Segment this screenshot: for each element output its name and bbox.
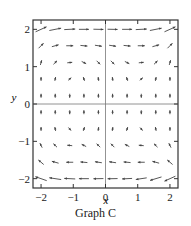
field-arrow — [38, 160, 43, 165]
field-arrow — [80, 161, 87, 163]
field-arrow — [139, 144, 144, 146]
field-arrow — [54, 127, 56, 131]
field-arrow — [66, 45, 73, 47]
field-arrow — [95, 45, 102, 47]
field-arrow — [138, 45, 145, 47]
field-arrow — [80, 45, 87, 47]
graph-caption: Graph C — [0, 206, 191, 221]
field-arrow — [97, 110, 99, 114]
field-arrow — [169, 127, 171, 131]
field-arrow — [49, 177, 61, 180]
y-tick-label: −1 — [18, 135, 30, 147]
field-arrow — [54, 94, 56, 98]
field-arrow — [108, 28, 118, 30]
x-axis-label: x — [103, 194, 109, 206]
field-arrow — [79, 177, 89, 179]
field-arrow — [167, 160, 172, 165]
field-arrow — [52, 44, 59, 46]
field-arrow — [64, 177, 75, 179]
field-arrow — [139, 61, 144, 63]
field-arrow — [140, 78, 143, 81]
field-arrow — [40, 94, 42, 98]
field-arrow — [154, 61, 158, 65]
field-arrow — [111, 110, 113, 114]
field-arrow — [52, 161, 59, 163]
field-arrow — [68, 78, 71, 81]
field-arrow — [122, 178, 132, 180]
field-arrow — [54, 110, 56, 114]
field-arrow — [169, 143, 171, 147]
field-arrow — [53, 144, 57, 148]
field-arrow — [126, 94, 128, 98]
x-tick-label: 2 — [167, 191, 173, 203]
y-tick-label: 0 — [25, 98, 31, 110]
field-arrow — [126, 77, 128, 81]
field-arrow — [40, 143, 42, 147]
field-arrow — [40, 77, 42, 81]
field-arrow — [152, 44, 159, 46]
field-arrow — [53, 61, 57, 65]
field-arrow — [111, 94, 113, 98]
field-arrow — [39, 43, 44, 48]
field-arrow — [155, 94, 157, 98]
field-arrow — [97, 127, 99, 131]
field-arrow — [97, 61, 101, 65]
field-arrow — [83, 77, 85, 81]
vector-field-figure: −2−1012−2−1012 x y Graph C — [0, 0, 191, 226]
field-arrow — [150, 177, 161, 181]
y-axis-label: y — [11, 91, 17, 103]
field-arrow — [111, 144, 115, 148]
field-arrow — [97, 94, 99, 98]
field-arrow — [64, 28, 75, 30]
field-arrow — [125, 61, 129, 63]
field-arrow — [97, 144, 101, 148]
x-tick-label: −2 — [35, 191, 47, 203]
field-arrow — [155, 77, 157, 81]
field-arrow — [140, 127, 143, 130]
x-tick-label: −1 — [67, 191, 79, 203]
field-arrow — [83, 94, 85, 98]
field-arrow — [136, 28, 147, 30]
field-arrow — [111, 61, 115, 65]
field-arrow — [125, 144, 129, 146]
field-arrow — [124, 161, 131, 163]
field-arrow — [95, 161, 102, 163]
field-arrow — [83, 127, 85, 131]
field-arrow — [93, 28, 103, 30]
field-arrow — [68, 127, 71, 130]
field-arrow — [36, 27, 47, 32]
field-arrow — [154, 144, 158, 148]
field-arrow — [122, 28, 132, 30]
field-arrow — [79, 28, 89, 30]
field-arrow — [140, 94, 142, 98]
field-arrow — [169, 110, 171, 114]
field-arrow — [108, 178, 118, 180]
field-arrow — [155, 110, 157, 114]
field-arrow — [83, 110, 85, 114]
field-arrow — [69, 94, 71, 98]
field-arrow — [126, 127, 128, 131]
field-arrow — [136, 178, 147, 180]
field-arrow — [97, 77, 99, 81]
y-tick-label: 2 — [25, 23, 31, 35]
field-arrow — [109, 45, 116, 47]
field-arrow — [109, 161, 116, 163]
vector-field-plot: −2−1012−2−1012 x y — [0, 0, 191, 226]
field-arrow — [49, 28, 61, 31]
field-arrow — [164, 27, 175, 32]
field-arrow — [155, 127, 157, 131]
field-arrow — [140, 110, 142, 114]
y-tick-label: 1 — [25, 61, 31, 73]
field-arrow — [69, 110, 71, 114]
field-arrow — [152, 161, 159, 163]
field-arrow — [169, 94, 171, 98]
field-arrow — [82, 61, 86, 63]
field-arrow — [40, 60, 42, 65]
field-arrow — [111, 127, 113, 131]
field-arrow — [169, 60, 171, 65]
field-arrow — [66, 161, 73, 163]
field-arrow — [40, 127, 42, 131]
field-arrow — [150, 28, 162, 31]
field-arrow — [112, 77, 114, 81]
field-arrow — [126, 110, 128, 114]
